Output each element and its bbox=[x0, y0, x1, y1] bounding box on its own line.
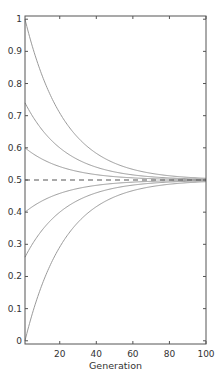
series-line bbox=[25, 182, 206, 341]
y-tick-label: 0.6 bbox=[8, 143, 23, 153]
series-line bbox=[25, 103, 206, 179]
x-tick-label: 40 bbox=[91, 349, 103, 359]
y-tick-label: 0.7 bbox=[8, 111, 22, 121]
y-tick-label: 0.3 bbox=[8, 239, 22, 249]
y-tick-label: 1 bbox=[16, 14, 22, 24]
x-tick-label: 80 bbox=[164, 349, 176, 359]
x-tick-label: 60 bbox=[127, 349, 139, 359]
y-tick-label: 0.9 bbox=[8, 46, 23, 56]
x-tick-label: 20 bbox=[54, 349, 66, 359]
y-tick-label: 0.4 bbox=[8, 207, 23, 217]
y-tick-label: 0.2 bbox=[8, 271, 22, 281]
x-tick-label: 100 bbox=[197, 349, 214, 359]
series-line bbox=[25, 19, 206, 178]
x-axis-label: Generation bbox=[89, 360, 142, 371]
y-tick-label: 0.8 bbox=[8, 79, 23, 89]
chart: 20406080100 00.10.20.30.40.50.60.70.80.9… bbox=[0, 0, 220, 392]
x-axis-ticks: 20406080100 bbox=[54, 16, 215, 359]
y-tick-label: 0 bbox=[16, 336, 22, 346]
series-line bbox=[25, 181, 206, 257]
y-tick-label: 0.1 bbox=[8, 304, 22, 314]
y-tick-label: 0.5 bbox=[8, 175, 22, 185]
